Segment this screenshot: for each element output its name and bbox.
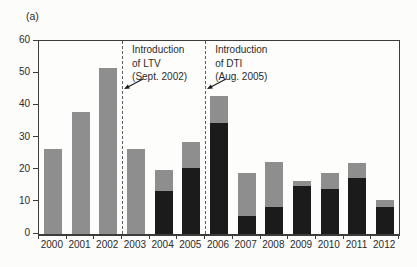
y-axis-tick-label: 60 [6,34,30,45]
bar-2001-gray-segment [72,112,90,234]
y-axis-tick-label: 30 [6,131,30,142]
bar-2010-gray-segment [321,173,339,189]
bar-2011-dark-segment [348,178,366,234]
bar-2010-dark-segment [321,189,339,234]
bar-2008-dark-segment [265,207,283,234]
figure-panel-a: (a) Introductionof LTV(Sept. 2002)Introd… [0,0,417,267]
bar-2004-dark-segment [155,191,173,234]
bar-2000-gray-segment [44,149,62,234]
y-axis-tick [33,136,38,137]
ltv-annotation-line: Introduction [132,43,187,57]
ltv-arrow-icon [120,77,148,97]
bar-2007-gray-segment [238,173,256,216]
panel-letter-label: (a) [26,10,39,22]
y-axis-tick-label: 50 [6,66,30,77]
dti-policy-dashed-line [205,41,206,234]
bar-2008-gray-segment [265,162,283,207]
bar-2007-dark-segment [238,216,256,234]
y-axis-tick [33,168,38,169]
dti-arrow-icon [203,77,231,97]
y-axis-tick-label: 0 [6,227,30,238]
y-axis-tick-label: 10 [6,195,30,206]
y-axis-tick [33,40,38,41]
y-axis-tick [33,233,38,234]
bar-2006-dark-segment [210,123,228,234]
bar-2009-dark-segment [293,186,311,234]
y-axis-tick [33,200,38,201]
x-axis-tick-label: 2012 [368,239,400,250]
bar-2012-dark-segment [376,207,394,234]
y-axis-tick-label: 20 [6,163,30,174]
y-axis-tick-label: 40 [6,98,30,109]
ltv-annotation-line: of LTV [132,57,187,71]
bar-2005-gray-segment [182,142,200,168]
bar-2009-gray-segment [293,181,311,186]
bar-2011-gray-segment [348,163,366,177]
bar-2006-gray-segment [210,96,228,123]
y-axis-tick [33,72,38,73]
bar-2003-gray-segment [127,149,145,234]
bar-2004-gray-segment [155,170,173,191]
bar-2002-gray-segment [99,68,117,234]
y-axis-tick [33,104,38,105]
dti-annotation-line: of DTI [215,57,267,71]
ltv-policy-dashed-line [122,41,123,234]
dti-annotation-line: Introduction [215,43,267,57]
bar-2005-dark-segment [182,168,200,234]
bar-2012-gray-segment [376,200,394,206]
plot-area: Introductionof LTV(Sept. 2002)Introducti… [38,40,400,236]
